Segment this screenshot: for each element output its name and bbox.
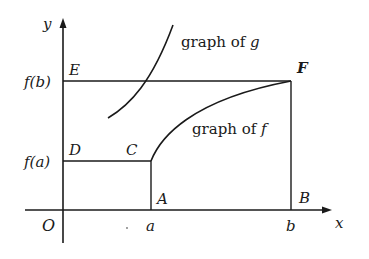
axes xyxy=(25,26,324,243)
point-label-C: C xyxy=(126,141,138,159)
x-tick-b: b xyxy=(286,217,296,235)
graph-of-g-prefix: graph of xyxy=(181,33,250,51)
graph-of-g-curve xyxy=(108,25,173,118)
y-tick-fb: f(b) xyxy=(23,73,51,91)
origin-label: O xyxy=(42,216,55,235)
diagram-canvas: y x O a b f(a) f(b) E F D C A B graph of… xyxy=(0,0,369,259)
y-axis-label: y xyxy=(42,15,52,33)
point-label-A: A xyxy=(155,190,168,208)
guide-lines xyxy=(63,81,291,210)
graph-of-f-name: f xyxy=(260,120,269,138)
graph-of-f-prefix: graph of xyxy=(192,120,261,138)
graph-of-f-label: graph of f xyxy=(192,120,269,138)
stray-dot xyxy=(126,227,128,229)
graph-of-g-name: g xyxy=(250,33,260,51)
point-label-E: E xyxy=(68,61,80,79)
x-axis-label: x xyxy=(335,214,344,232)
point-label-B: B xyxy=(298,189,310,207)
x-axis-arrow-icon xyxy=(322,207,332,214)
y-axis-arrow-icon xyxy=(60,18,67,28)
point-label-D: D xyxy=(68,141,81,159)
point-label-F: F xyxy=(296,59,309,77)
y-tick-fa: f(a) xyxy=(23,153,50,171)
x-tick-a: a xyxy=(146,217,155,235)
graph-of-g-label: graph of g xyxy=(181,33,260,51)
